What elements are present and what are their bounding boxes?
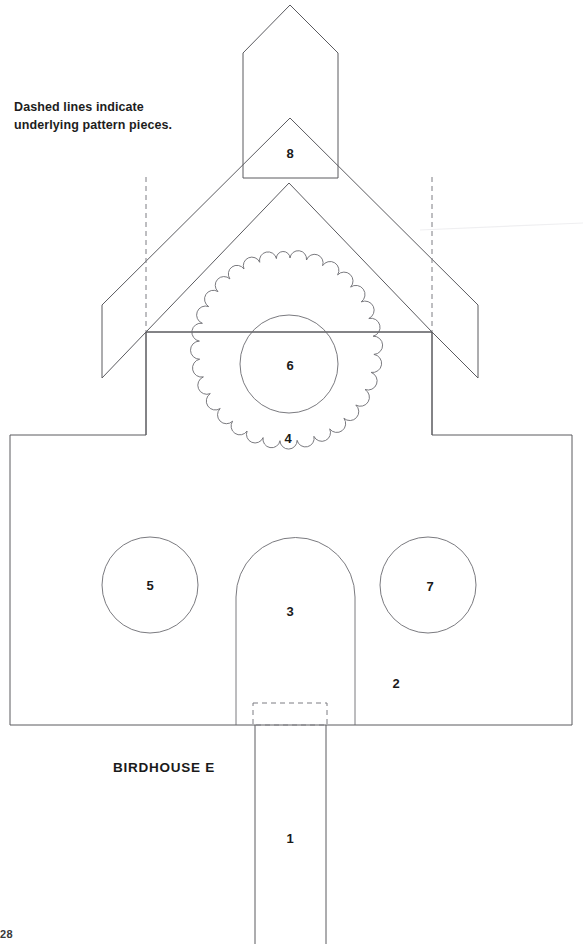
caption-line-2: underlying pattern pieces. xyxy=(14,116,224,134)
piece-label-8: 8 xyxy=(286,146,293,161)
piece-label-5: 5 xyxy=(146,578,153,593)
page-number: 28 xyxy=(0,928,13,940)
body-outline xyxy=(10,332,572,725)
piece-label-1: 1 xyxy=(286,831,293,846)
gable-peak-outline xyxy=(146,183,432,332)
piece-label-6: 6 xyxy=(286,358,293,373)
dashed-line-caption: Dashed lines indicate underlying pattern… xyxy=(14,98,224,134)
piece-label-2: 2 xyxy=(392,676,399,691)
pattern-drawing: 1 2 3 4 5 6 7 8 xyxy=(0,0,583,944)
piece-label-3: 3 xyxy=(286,604,293,619)
piece-label-4: 4 xyxy=(284,431,292,446)
arched-door-outline xyxy=(236,538,355,725)
page-title: BIRDHOUSE E xyxy=(113,760,215,775)
scalloped-medallion-outline xyxy=(190,251,382,449)
caption-line-1: Dashed lines indicate xyxy=(14,98,224,116)
pattern-sheet: 1 2 3 4 5 6 7 8 Dashed lines indicate un… xyxy=(0,0,583,944)
scan-artifact-line xyxy=(420,223,583,230)
piece-label-7: 7 xyxy=(426,579,433,594)
dashed-post-tab xyxy=(253,703,327,725)
